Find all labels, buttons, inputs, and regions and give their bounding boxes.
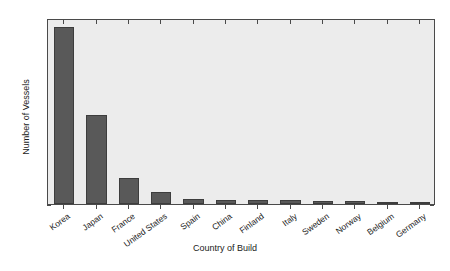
x-axis-tick-mark-top [160, 20, 161, 24]
x-axis-tick-label-text: Japan [80, 211, 105, 233]
x-axis-tick-label-text: Spain [178, 211, 201, 232]
bar [54, 27, 74, 204]
x-axis-tick-mark [225, 205, 226, 209]
x-axis-tick-label-text: France [109, 211, 136, 235]
bar [248, 200, 268, 204]
x-axis-tick-mark [96, 205, 97, 209]
x-axis-tick-mark-top [322, 20, 323, 24]
x-axis-tick-mark-top [419, 20, 420, 24]
x-axis-tick-mark-top [63, 20, 64, 24]
bar-chart-figure: Number of Vessels 0204060801001201401601… [0, 0, 450, 271]
x-axis-tick-mark-top [387, 20, 388, 24]
x-axis-tick-mark-top [128, 20, 129, 24]
y-axis-label: Number of Vessels [21, 42, 31, 192]
x-axis-tick-mark-top [193, 20, 194, 24]
x-axis-tick-mark-top [290, 20, 291, 24]
x-axis-tick-label-text: Korea [48, 211, 72, 232]
bar [313, 201, 333, 204]
bars-layer [48, 20, 434, 204]
x-axis-tick-mark-top [225, 20, 226, 24]
x-axis-tick-mark [387, 205, 388, 209]
x-axis-tick-mark [354, 205, 355, 209]
bar [119, 178, 139, 204]
x-axis-tick-label-text: Finland [238, 211, 266, 235]
x-axis-tick-mark [63, 205, 64, 209]
x-axis-tick-mark-top [354, 20, 355, 24]
x-axis-tick-mark [322, 205, 323, 209]
x-axis-tick-mark [160, 205, 161, 209]
x-axis-tick-mark-top [96, 20, 97, 24]
x-axis-tick-label-text: Italy [280, 211, 298, 228]
bar [86, 115, 106, 204]
bar [216, 200, 236, 204]
caption-fragment [8, 261, 442, 270]
x-axis-tick-mark-top [257, 20, 258, 24]
x-axis-label: Country of Build [0, 243, 450, 253]
plot-area [47, 19, 435, 205]
y-axis-tick-mark [47, 205, 51, 206]
x-axis-tick-label-text: Belgium [365, 211, 396, 237]
x-axis-tick-label-text: China [210, 211, 234, 232]
x-axis-tick-mark [290, 205, 291, 209]
x-axis-tick-label-text: Norway [334, 211, 363, 236]
x-axis-tick-mark [419, 205, 420, 209]
x-axis-tick-mark [193, 205, 194, 209]
x-axis-tick-mark [128, 205, 129, 209]
x-axis-tick-mark [257, 205, 258, 209]
